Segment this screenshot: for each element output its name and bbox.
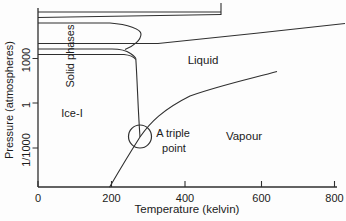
x-tick-label-800: 800 [325, 192, 343, 203]
boundary-solid-lobe [38, 23, 141, 50]
y-axis-title: Pressure (atmospheres) [4, 41, 15, 159]
y-tick-label-2: 1/1000 [21, 133, 32, 167]
x-axis-ticks [38, 181, 335, 187]
y-tick-label-0: 1000 [21, 48, 32, 72]
region-label-vapour: Vapour [226, 131, 262, 143]
x-tick-label-0: 0 [35, 192, 41, 203]
x-tick-label-600: 600 [252, 192, 270, 203]
region-label-liquid: Liquid [188, 55, 219, 67]
boundary-high-pressure-melting [38, 24, 345, 44]
triple-point-label-line2: point [162, 143, 186, 154]
region-label-ice-i: Ice-I [61, 108, 82, 119]
phase-diagram-svg [0, 0, 346, 221]
x-tick-label-400: 400 [176, 192, 194, 203]
y-tick-label-1: 1 [21, 101, 32, 107]
boundary-solid-line-low [38, 55, 136, 60]
x-tick-label-200: 200 [102, 192, 120, 203]
water-phase-diagram: Pressure (atmospheres)Temperature (kelvi… [0, 0, 346, 221]
region-label-solid-phases: Solid phases [65, 25, 76, 88]
x-axis-title: Temperature (kelvin) [135, 204, 240, 216]
triple-point-label-line1: A triple [156, 128, 190, 139]
y-axis-ticks [33, 59, 39, 149]
boundary-solid-line-mid [38, 49, 136, 59]
boundary-top-lower-line [38, 15, 221, 18]
